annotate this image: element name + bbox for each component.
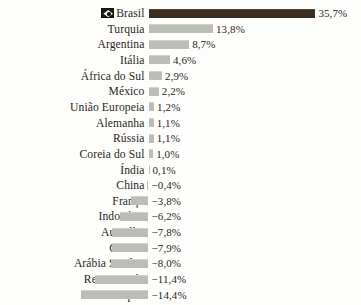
chart-row: Rússia1,1% [0,131,361,146]
brazil-flag-icon [101,8,114,18]
chart-bar [149,71,163,80]
value-label: −0,4% [152,178,182,193]
chart-bar [81,290,148,299]
value-label: 2,9% [165,69,188,84]
category-label: Índia [120,163,144,178]
chart-bar [112,243,149,252]
category-label: Turquia [108,22,145,37]
chart-row: Índia0,1% [0,163,361,178]
chart-row: Alemanha1,1% [0,116,361,131]
chart-row: Turquia13,8% [0,22,361,37]
bar-chart: Brasil35,7%Turquia13,8%Argentina8,7%Itál… [0,0,361,305]
category-label: Brasil [116,6,144,21]
chart-row: Reino Unido−11,4% [0,272,361,287]
value-label: 35,7% [318,6,347,21]
value-label: 8,7% [192,37,215,52]
chart-bar [112,228,148,237]
chart-row: África do Sul2,9% [0,69,361,84]
chart-row: Coreia do Sul1,0% [0,147,361,162]
value-label: −8,0% [152,256,182,271]
value-label: 4,6% [173,53,196,68]
chart-bar [149,9,316,18]
chart-bar [149,87,159,96]
chart-row: Arábia Saudita−8,0% [0,256,361,271]
chart-row: Brasil35,7% [0,6,361,21]
category-label: África do Sul [81,69,145,84]
flag-globe [107,12,111,16]
category-label: Argentina [97,37,144,52]
category-label: Coreia do Sul [79,147,144,162]
value-label: −11,4% [152,272,187,287]
chart-bar [149,165,150,174]
category-label: México [108,84,144,99]
value-label: −3,8% [152,194,182,209]
value-label: −14,4% [152,288,187,303]
chart-bar [149,134,154,143]
category-label: Alemanha [96,116,144,131]
chart-row: União Europeia1,2% [0,100,361,115]
value-label: 1,2% [157,100,180,115]
chart-row: Argentina8,7% [0,37,361,52]
chart-bar [149,55,171,64]
value-label: −7,8% [152,225,182,240]
category-label: China [116,178,144,193]
value-label: 13,8% [216,22,245,37]
chart-bar [149,118,154,127]
value-label: 2,2% [162,84,185,99]
chart-row: Indonésia−6,2% [0,209,361,224]
chart-bar [95,275,148,284]
value-label: −7,9% [152,241,182,256]
chart-row: China−0,4% [0,178,361,193]
value-label: −6,2% [152,209,182,224]
value-label: 1,1% [157,131,180,146]
chart-bar [149,24,214,33]
chart-row: México2,2% [0,84,361,99]
value-label: 1,0% [156,147,179,162]
chart-bar [111,259,148,268]
chart-row: Austrália−7,8% [0,225,361,240]
chart-row: Japão−14,4% [0,288,361,303]
chart-bar [149,40,190,49]
chart-bar [120,212,149,221]
value-label: 1,1% [157,116,180,131]
category-label: União Europeia [70,100,144,115]
chart-bar [149,149,154,158]
chart-row: Itália4,6% [0,53,361,68]
chart-row: Canadá−7,9% [0,241,361,256]
value-label: 0,1% [153,163,176,178]
chart-plot-area: Brasil35,7%Turquia13,8%Argentina8,7%Itál… [0,0,361,305]
chart-bar [131,196,149,205]
category-label: Rússia [113,131,145,146]
category-label: Itália [120,53,144,68]
chart-bar [149,102,155,111]
chart-bar [147,181,149,190]
chart-row: França−3,8% [0,194,361,209]
